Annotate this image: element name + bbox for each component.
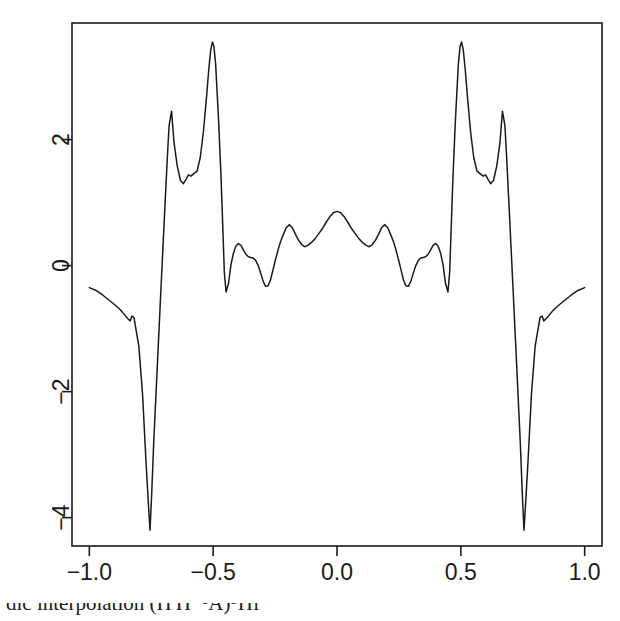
y-tick-label: 2 [48,133,74,146]
figure-container: −1.0−0.50.00.51.0 20−2−4 dic interpolati… [0,0,620,621]
y-tick-label: −2 [48,379,74,405]
x-tick-label: −1.0 [67,559,112,585]
y-tick-label: −4 [48,504,74,530]
x-tick-label: 0.5 [445,559,477,585]
figure-caption-strip: dic interpolation (Π Π⁻¹A)⁵Πf [0,603,620,621]
wavelet-line-chart: −1.0−0.50.00.51.0 20−2−4 [0,0,620,621]
y-tick-label: 0 [48,259,74,272]
chart-background [0,0,620,621]
x-tick-label: 0.0 [321,559,353,585]
x-tick-label: 1.0 [569,559,601,585]
figure-caption: dic interpolation (Π Π⁻¹A)⁵Πf [6,603,260,616]
x-tick-label: −0.5 [190,559,235,585]
